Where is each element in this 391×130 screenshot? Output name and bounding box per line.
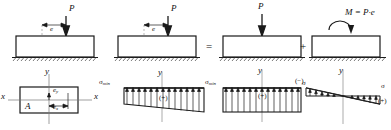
load-label-p: P <box>258 2 264 11</box>
panel-bending-stress: y (−) σ (+) <box>296 66 391 130</box>
stress-axis-y-label: y <box>258 66 262 75</box>
stress-axis-y-label: y <box>339 66 343 75</box>
panel-cross-section: y x x A ey ex <box>0 66 110 130</box>
moment-arrowhead <box>348 25 354 34</box>
ground-hatching <box>115 58 198 62</box>
section-axis-x-label-right: x <box>94 92 98 101</box>
operator-plus: + <box>300 40 306 52</box>
diagram-canvas: P e y x x A ey <box>0 0 391 130</box>
ground-hatching <box>220 58 303 62</box>
ecc-y-label: ey <box>53 87 58 95</box>
block-body <box>118 36 196 57</box>
section-axis-y-label: y <box>45 67 49 76</box>
eccentricity-dimension <box>42 23 66 27</box>
stress-label-sigma: σ <box>381 83 385 90</box>
moment-arrow <box>329 21 351 30</box>
panel-eccentric-load-repeat: P e <box>110 0 215 66</box>
block-body <box>16 36 94 57</box>
load-label-p: P <box>171 4 177 13</box>
eccentricity-label-e: e <box>50 26 53 33</box>
panel-eccentric-load-graphic <box>0 0 110 66</box>
eccentricity-dimension <box>144 23 168 27</box>
panel-eccentric-repeat-graphic <box>110 0 215 66</box>
stress-sign-positive: (+) <box>378 98 387 105</box>
panel-pure-moment: M = P·e <box>308 0 391 66</box>
ecc-x-label: ex <box>53 104 58 112</box>
ground-hatching <box>310 58 385 62</box>
section-axis-x-label-left: x <box>1 92 5 101</box>
load-arrow-p <box>259 14 266 36</box>
stress-axis-y-label: y <box>158 68 162 77</box>
panel-centric-load: P <box>216 0 308 66</box>
block-body <box>223 36 301 57</box>
stress-label-min-left: σmin <box>99 79 110 87</box>
stress-sign-positive: (+) <box>159 95 168 102</box>
panel-eccentric-load: P e <box>0 0 110 66</box>
bending-stress-graphic <box>296 66 391 130</box>
panel-trapezoid-stress: y σmin σmin (+) <box>100 66 220 130</box>
operator-equals: = <box>206 40 212 52</box>
moment-label: M = P·e <box>345 8 375 17</box>
ground-hatching <box>13 58 96 62</box>
block-body <box>312 36 380 57</box>
bending-triangle-positive <box>343 96 380 104</box>
bending-triangle-negative <box>306 88 343 96</box>
load-label-p: P <box>69 4 75 13</box>
stress-sign-negative: (−) <box>295 78 304 85</box>
stress-sign-positive: (+) <box>258 93 267 100</box>
eccentricity-label-e: e <box>152 26 155 33</box>
section-corner-label-a: A <box>25 102 31 111</box>
